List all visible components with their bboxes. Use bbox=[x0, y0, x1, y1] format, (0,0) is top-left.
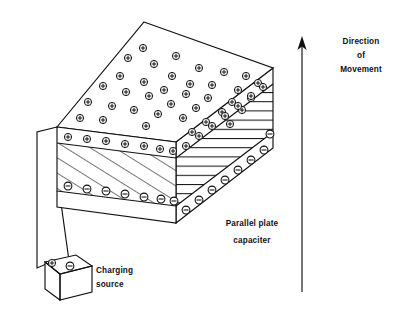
charging-source-box bbox=[45, 255, 92, 300]
source-terminal-positive bbox=[48, 259, 55, 266]
parallel-plate-capacitor bbox=[50, 22, 285, 223]
direction-label-line3: Movement bbox=[340, 65, 382, 74]
direction-label-line2: of bbox=[357, 51, 365, 60]
source-terminal-negative bbox=[66, 262, 74, 270]
capacitor-diagram: Direction of Movement Parallel plate cap… bbox=[0, 0, 401, 326]
capacitor-label-line2: capaciter bbox=[233, 236, 271, 245]
direction-label-line1: Direction bbox=[343, 37, 380, 46]
charging-source-label: Charging source bbox=[96, 266, 133, 289]
charging-source-label-line2: source bbox=[96, 280, 124, 289]
movement-arrow bbox=[297, 36, 306, 292]
capacitor-label: Parallel plate capaciter bbox=[226, 219, 279, 245]
charging-source-label-line1: Charging bbox=[96, 266, 133, 275]
figure-root: Direction of Movement Parallel plate cap… bbox=[0, 0, 401, 326]
direction-label: Direction of Movement bbox=[340, 37, 382, 74]
capacitor-label-line1: Parallel plate bbox=[226, 219, 279, 228]
wire-positive bbox=[37, 127, 57, 268]
